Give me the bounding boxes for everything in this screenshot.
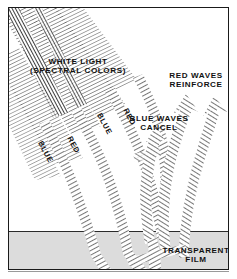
- label-blue-cancel-line2: CANCEL: [140, 123, 177, 132]
- figure-thin-film-interference: WHITE LIGHT (SPECTRAL COLORS) RED WAVES …: [0, 0, 237, 279]
- figure-frame: WHITE LIGHT (SPECTRAL COLORS) RED WAVES …: [8, 7, 229, 270]
- label-transparent-film-line1: TRANSPARENT: [162, 246, 229, 255]
- label-red-reinforce-line1: RED WAVES: [169, 71, 222, 80]
- label-blue-cancel-line1: BLUE WAVES: [130, 114, 189, 123]
- label-red-reinforce-line2: REINFORCE: [169, 80, 222, 89]
- label-white-light: WHITE LIGHT (SPECTRAL COLORS): [22, 57, 134, 75]
- label-red-waves-reinforce: RED WAVES REINFORCE: [155, 71, 229, 89]
- label-white-light-line2: (SPECTRAL COLORS): [30, 66, 126, 75]
- label-transparent-film-line2: FILM: [185, 255, 206, 264]
- frame-bottom-rule: [8, 271, 229, 272]
- label-transparent-film: TRANSPARENT FILM: [157, 246, 229, 264]
- label-white-light-line1: WHITE LIGHT: [48, 57, 107, 66]
